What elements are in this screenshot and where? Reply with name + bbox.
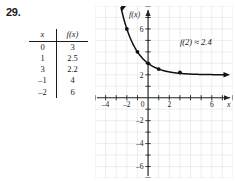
axes	[97, 10, 230, 176]
graph-panel: –4–202662–2–4–6 f(x) x f(2) ≈ 2.4	[95, 6, 233, 178]
graph-svg: –4–202662–2–4–6 f(x) x f(2) ≈ 2.4	[95, 6, 233, 178]
cell-fx: 6	[57, 87, 89, 98]
data-point	[125, 27, 129, 31]
data-point	[157, 67, 161, 71]
data-point	[178, 71, 182, 75]
table-row: 0 3	[29, 41, 88, 53]
x-tick-label: –2	[122, 100, 131, 109]
x-tick-label: 0	[141, 100, 145, 109]
cell-x: 3	[29, 64, 57, 75]
table-row: –1 4	[29, 75, 88, 86]
cell-fx: 2.2	[57, 64, 89, 75]
value-table: x f(x) 0 3 1 2.5 3 2.2 –1 4 –2 6	[29, 29, 88, 98]
table-row: 1 2.5	[29, 53, 88, 64]
y-tick-label: 6	[140, 25, 144, 34]
grid	[95, 6, 233, 178]
x-axis-label: x	[226, 100, 231, 109]
y-tick-label: –6	[135, 162, 144, 171]
y-tick-label: 2	[140, 71, 144, 80]
table: x f(x) 0 3 1 2.5 3 2.2 –1 4 –2 6	[29, 29, 88, 98]
curve-arrowhead-left	[119, 6, 127, 12]
data-point	[146, 61, 150, 65]
cell-x: –2	[29, 87, 57, 98]
y-axis-arrowhead	[145, 10, 150, 16]
graph-annotation: f(2) ≈ 2.4	[180, 37, 213, 47]
x-tick-label: –4	[101, 100, 110, 109]
x-tick-label: 2	[167, 100, 171, 109]
cell-fx: 2.5	[57, 53, 89, 64]
table-row: –2 6	[29, 87, 88, 98]
cell-x: 1	[29, 53, 57, 64]
axis-ticks	[95, 6, 233, 178]
table-row: 3 2.2	[29, 64, 88, 75]
column-header-fx: f(x)	[57, 29, 89, 41]
problem-number: 29.	[6, 6, 20, 18]
column-header-x: x	[29, 29, 57, 41]
y-axis-label: f(x)	[129, 10, 140, 19]
y-tick-label: –4	[135, 139, 144, 148]
data-point	[136, 50, 140, 54]
curve-arrowhead-right	[224, 72, 231, 77]
x-tick-label: 6	[210, 100, 214, 109]
cell-x: 0	[29, 41, 57, 53]
cell-fx: 4	[57, 75, 89, 86]
cell-x: –1	[29, 75, 57, 86]
y-tick-label: –2	[135, 116, 144, 125]
table-header-row: x f(x)	[29, 29, 88, 41]
cell-fx: 3	[57, 41, 89, 53]
